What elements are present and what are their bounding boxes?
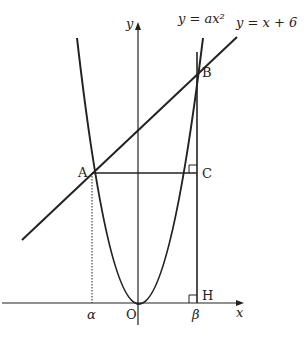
diagram-graphics	[0, 0, 304, 337]
alpha-label: α	[87, 308, 96, 321]
line-label: y = x + 6	[236, 16, 297, 29]
right-angle-mark-H	[189, 295, 197, 303]
point-B-label: B	[202, 66, 212, 79]
curve-label: y = ax²	[178, 12, 225, 25]
diagram: y y = ax² y = x + 6 B A C H O α β x	[0, 0, 304, 337]
y-axis-arrow-icon	[135, 22, 141, 30]
origin-label: O	[126, 308, 137, 321]
y-axis-label: y	[126, 17, 133, 30]
right-angle-mark-C	[189, 165, 197, 173]
beta-label: β	[192, 308, 200, 321]
point-H-label: H	[202, 289, 213, 302]
x-axis-label: x	[236, 306, 243, 319]
point-C-label: C	[202, 167, 212, 180]
point-A-label: A	[78, 166, 87, 179]
